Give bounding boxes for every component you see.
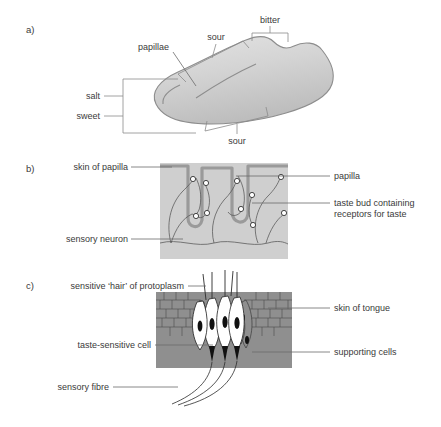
label-taste-bud-line2: receptors for taste	[334, 209, 407, 219]
tongue-shape	[154, 37, 333, 124]
label-bitter: bitter	[260, 15, 280, 25]
label-sweet: sweet	[76, 111, 100, 121]
panel-a-label: a)	[26, 24, 34, 35]
label-sensitive-hair: sensitive ‘hair’ of protoplasm	[70, 281, 184, 291]
label-taste-sensitive-cell: taste-sensitive cell	[77, 340, 151, 350]
label-sensory-fibre: sensory fibre	[57, 382, 109, 392]
label-sensory-neuron: sensory neuron	[66, 234, 128, 244]
label-salt: salt	[86, 91, 101, 101]
label-supporting-cells: supporting cells	[334, 347, 397, 357]
panel-b-tissue-block	[160, 163, 288, 259]
panel-b-illustration	[160, 163, 288, 259]
label-papilla: papilla	[334, 171, 360, 181]
label-sour-upper: sour	[207, 32, 225, 42]
taste-anatomy-figure: a) bitter sour sour papillae salt swe	[0, 0, 441, 427]
panel-b-label: b)	[26, 163, 34, 174]
label-papillae: papillae	[138, 42, 169, 52]
panel-c-label: c)	[26, 280, 34, 291]
panel-a-illustration	[154, 37, 333, 124]
label-skin-of-papilla: skin of papilla	[73, 162, 128, 172]
label-taste-bud-line1: taste bud containing	[334, 198, 415, 208]
label-sour-lower: sour	[228, 136, 246, 146]
label-skin-of-tongue: skin of tongue	[334, 303, 390, 313]
